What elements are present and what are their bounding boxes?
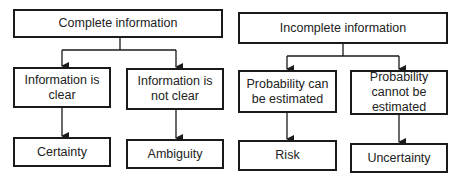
probability-can-be-estimated-box: Probability can be estimated [238, 70, 337, 113]
information-not-clear-box: Information is not clear [126, 68, 224, 110]
risk-label: Risk [275, 148, 299, 163]
complete-information-box: Complete information [13, 9, 223, 38]
information-clear-box: Information is clear [13, 67, 111, 108]
risk-box: Risk [238, 140, 337, 171]
information-not-clear-label: Information is not clear [132, 74, 218, 104]
complete-information-label: Complete information [59, 16, 178, 31]
incomplete-information-box: Incomplete information [238, 12, 448, 44]
certainty-label: Certainty [37, 145, 87, 160]
uncertainty-box: Uncertainty [350, 143, 448, 173]
information-clear-label: Information is clear [19, 73, 105, 103]
certainty-box: Certainty [13, 137, 111, 167]
probability-can-be-estimated-label: Probability can be estimated [244, 77, 331, 107]
ambiguity-label: Ambiguity [148, 147, 203, 162]
uncertainty-label: Uncertainty [367, 151, 430, 166]
incomplete-information-label: Incomplete information [280, 21, 406, 36]
probability-cannot-be-estimated-label: Probability cannot be estimated [356, 70, 442, 115]
probability-cannot-be-estimated-box: Probability cannot be estimated [350, 70, 448, 115]
ambiguity-box: Ambiguity [126, 139, 224, 169]
